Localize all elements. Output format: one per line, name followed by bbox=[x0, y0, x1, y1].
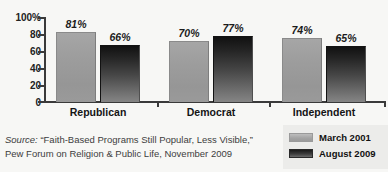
value-label-republican-august-2009: 66% bbox=[100, 32, 140, 43]
legend-item-august-2009[interactable]: August 2009 bbox=[289, 147, 385, 160]
source-title: “Faith-Based Programs Still Popular, Les… bbox=[38, 134, 253, 145]
value-label-republican-march-2001: 81% bbox=[56, 19, 96, 30]
value-label-democrat-august-2009: 77% bbox=[213, 23, 253, 34]
x-axis-tick-3 bbox=[384, 103, 386, 107]
source-prefix: Source: bbox=[5, 134, 38, 145]
bar-independent-august-2009[interactable] bbox=[326, 46, 366, 102]
bars-layer bbox=[0, 0, 388, 102]
bar-independent-march-2001[interactable] bbox=[282, 38, 322, 102]
chart-footer: Source: “Faith-Based Programs Still Popu… bbox=[0, 122, 388, 172]
category-label-independent: Independent bbox=[274, 106, 374, 118]
x-axis-tick-1 bbox=[157, 103, 159, 107]
bar-chart: 100% 80 60 40 20 0 81% 66% 70% 77% 74% 6… bbox=[0, 0, 388, 122]
value-label-democrat-march-2001: 70% bbox=[169, 28, 209, 39]
legend-item-march-2001[interactable]: March 2001 bbox=[289, 131, 385, 144]
legend-swatch-dark-gray bbox=[289, 149, 313, 158]
value-label-independent-march-2001: 74% bbox=[282, 25, 322, 36]
value-label-independent-august-2009: 65% bbox=[326, 33, 366, 44]
chart-legend: March 2001 August 2009 bbox=[289, 131, 385, 165]
bar-republican-august-2009[interactable] bbox=[100, 45, 140, 102]
bar-republican-march-2001[interactable] bbox=[56, 32, 96, 102]
legend-label-march-2001: March 2001 bbox=[319, 132, 371, 143]
source-citation: Source: “Faith-Based Programs Still Popu… bbox=[5, 133, 287, 160]
x-axis-tick-2 bbox=[269, 103, 271, 107]
legend-swatch-light-gray bbox=[289, 133, 313, 142]
bar-democrat-march-2001[interactable] bbox=[169, 41, 209, 102]
category-label-democrat: Democrat bbox=[161, 106, 261, 118]
legend-label-august-2009: August 2009 bbox=[319, 148, 376, 159]
category-label-republican: Republican bbox=[48, 106, 148, 118]
bar-democrat-august-2009[interactable] bbox=[213, 36, 253, 102]
source-publisher: Pew Forum on Religion & Public Life, Nov… bbox=[5, 148, 232, 159]
